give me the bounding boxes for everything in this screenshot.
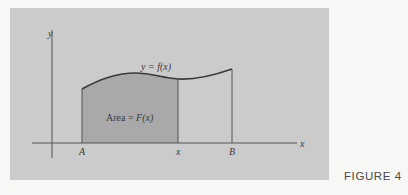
x-axis-label: x <box>299 138 305 149</box>
area-function-diagram: y x y = f(x) Area = F(x) A x B <box>0 0 408 195</box>
tick-label-x: x <box>175 146 181 157</box>
figure-caption: FIGURE 4 <box>344 170 402 182</box>
area-label-prefix: Area = <box>106 112 136 123</box>
tick-label-b: B <box>229 146 235 157</box>
area-label-function: F(x) <box>135 112 154 124</box>
tick-label-a: A <box>78 146 86 157</box>
shaded-area-region <box>82 73 178 143</box>
area-label: Area = F(x) <box>106 112 154 124</box>
y-axis-label: y <box>47 28 53 39</box>
curve-label: y = f(x) <box>140 61 172 73</box>
